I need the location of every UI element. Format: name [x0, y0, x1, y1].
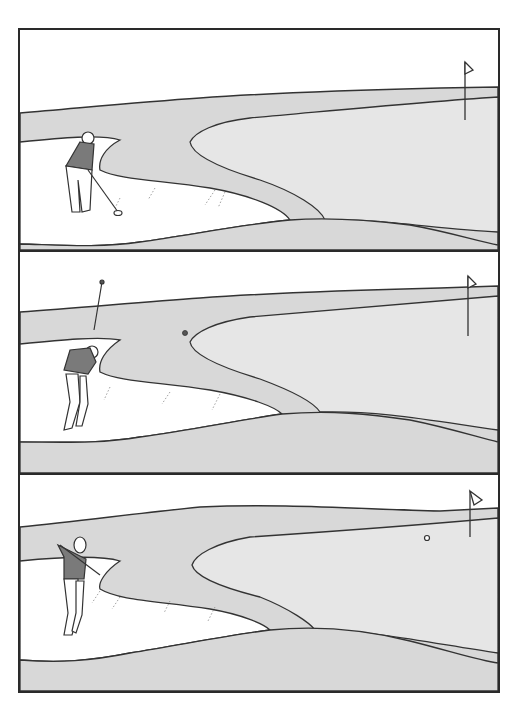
- panel-address: Address: golfer set up in bunker: [20, 30, 498, 250]
- bunker-scene: [20, 475, 498, 691]
- golf-ball: [183, 331, 188, 336]
- illustration-frame: Address: golfer set up in bunker: [18, 28, 500, 693]
- golf-ball: [425, 536, 430, 541]
- panel-impact: Impact/follow-through: ball rising over …: [20, 252, 498, 473]
- panel-finish: Finish: ball on green near flag: [20, 475, 498, 691]
- bunker-scene: [20, 30, 498, 250]
- bunker-scene: [20, 252, 498, 473]
